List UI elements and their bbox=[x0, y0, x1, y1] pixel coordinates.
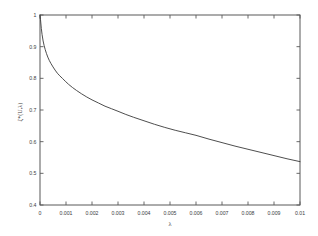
figure-container: 00.0010.0020.0030.0040.0050.0060.0070.00… bbox=[0, 0, 318, 236]
y-axis-label: ζ*(U,λ) bbox=[16, 103, 24, 122]
x-tick-label-5: 0.005 bbox=[164, 210, 177, 216]
x-tick-label-7: 0.007 bbox=[216, 210, 229, 216]
x-tick-label-10: 0.01 bbox=[295, 210, 305, 216]
y-tick-label-4: 0.8 bbox=[29, 75, 36, 81]
x-tick-label-1: 0.001 bbox=[60, 210, 73, 216]
x-tick-label-4: 0.004 bbox=[138, 210, 151, 216]
y-tick-label-1: 0.5 bbox=[29, 170, 36, 176]
x-axis-label: λ bbox=[168, 220, 171, 227]
x-tick-label-8: 0.008 bbox=[242, 210, 255, 216]
y-tick-label-3: 0.7 bbox=[29, 107, 36, 113]
x-tick-labels: 00.0010.0020.0030.0040.0050.0060.0070.00… bbox=[39, 210, 306, 216]
x-tick-label-3: 0.003 bbox=[112, 210, 125, 216]
y-tick-labels: 0.40.50.60.70.80.91 bbox=[29, 12, 36, 208]
x-tick-label-9: 0.009 bbox=[268, 210, 281, 216]
plot-background bbox=[40, 15, 300, 205]
y-tick-label-2: 0.6 bbox=[29, 139, 36, 145]
chart-canvas: 00.0010.0020.0030.0040.0050.0060.0070.00… bbox=[0, 0, 318, 236]
y-tick-label-5: 0.9 bbox=[29, 44, 36, 50]
x-tick-label-6: 0.006 bbox=[190, 210, 203, 216]
x-tick-label-0: 0 bbox=[39, 210, 42, 216]
y-tick-label-6: 1 bbox=[34, 12, 37, 18]
y-tick-label-0: 0.4 bbox=[29, 202, 36, 208]
x-tick-label-2: 0.002 bbox=[86, 210, 99, 216]
